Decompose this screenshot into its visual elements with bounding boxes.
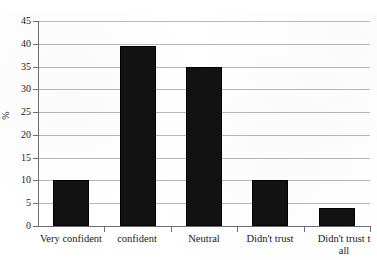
y-axis-tick-40 [33,44,39,45]
y-axis-tick-0 [33,226,39,227]
bar-5 [319,208,355,226]
y-axis-tick-25 [33,112,39,113]
x-axis-tick-2 [171,227,172,232]
y-axis-tick-35 [33,67,39,68]
gridline-40 [38,44,370,45]
cut-off-title-strip: … … … … … [0,0,377,12]
y-axis-tick-20 [33,135,39,136]
plot-area [38,21,370,226]
x-axis-tick-3 [237,227,238,232]
x-axis-tick-1 [104,227,105,232]
y-axis-tick-15 [33,158,39,159]
x-axis-label-5: Didn't trust t all [304,233,377,257]
y-axis-label-0: 0 [5,221,31,231]
bar-1 [53,180,89,226]
y-axis-tick-10 [33,180,39,181]
x-axis-label-1: Very confident [38,233,104,245]
y-axis-tick-labels: 051015202530354045 [0,21,31,227]
x-axis-tick-4 [304,227,305,232]
y-axis-label-35: 35 [5,62,31,72]
x-axis-tick-5 [370,227,371,232]
x-axis-tick-labels: Very confidentconfidentNeutralDidn't tru… [38,233,377,260]
ghost-title-text: … … … … … [60,0,320,2]
gridline-45 [38,21,370,22]
bar-3 [186,67,222,226]
x-axis-label-3: Neutral [171,233,237,245]
x-axis-label-2: confident [104,233,170,245]
y-axis-tick-5 [33,203,39,204]
x-axis-line [38,226,371,227]
y-axis-label-10: 10 [5,175,31,185]
bar-chart: % 051015202530354045 Very confidentconfi… [0,12,377,260]
y-axis-label-5: 5 [5,198,31,208]
x-axis-label-4: Didn't trust [237,233,303,245]
y-axis-label-45: 45 [5,16,31,26]
y-axis-tick-45 [33,21,39,22]
y-axis-label-20: 20 [5,130,31,140]
y-axis-label-40: 40 [5,39,31,49]
y-axis-label-25: 25 [5,107,31,117]
bar-4 [252,180,288,226]
y-axis-label-15: 15 [5,153,31,163]
y-axis-label-30: 30 [5,84,31,94]
y-axis-tick-30 [33,89,39,90]
bar-2 [120,46,156,226]
